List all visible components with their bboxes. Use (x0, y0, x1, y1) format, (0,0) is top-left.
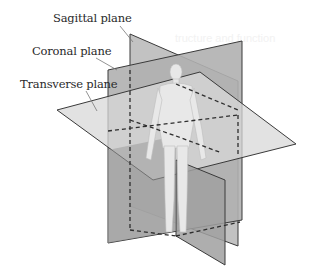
sagittal-plane-label: Sagittal plane (53, 11, 132, 25)
coronal-plane-label: Coronal plane (32, 44, 111, 58)
anatomical-planes-diagram (0, 0, 310, 271)
transverse-plane-label: Transverse plane (20, 77, 117, 91)
